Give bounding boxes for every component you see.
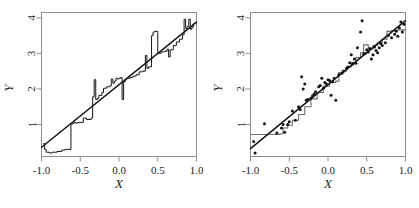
- r-x-tick-label: -1.0: [242, 164, 260, 176]
- left-step-function: [43, 19, 196, 153]
- r-y-tick-label: 1: [235, 122, 247, 128]
- r-y-tick-label: 2: [235, 86, 247, 92]
- left-y-axis-title: Y: [1, 83, 16, 92]
- left-x-tick-labels: -1.0-0.50.00.51.0: [33, 164, 204, 176]
- figure-root: -1.0-0.50.00.51.0 1234 X Y -1.0-0.50.00.…: [0, 0, 419, 208]
- right-y-axis-title: Y: [210, 83, 225, 92]
- right-plot-svg: -1.0-0.50.00.51.0 1234 X Y: [209, 0, 419, 208]
- left-x-tick-marks: [42, 157, 197, 162]
- l-x-tick-label: 1.0: [190, 164, 204, 176]
- l-y-tick-label: 3: [26, 50, 38, 56]
- r-x-tick-label: 0.0: [321, 164, 335, 176]
- left-x-axis-title: X: [114, 176, 124, 191]
- right-y-tick-marks: [246, 18, 251, 125]
- right-x-tick-labels: -1.0-0.50.00.51.0: [242, 164, 413, 176]
- l-x-tick-label: 0.0: [112, 164, 126, 176]
- left-regression-line: [42, 22, 197, 147]
- l-y-tick-label: 2: [26, 86, 38, 92]
- l-x-tick-label: -0.5: [72, 164, 90, 176]
- left-plot-svg: -1.0-0.50.00.51.0 1234 X Y: [0, 0, 209, 208]
- r-x-tick-label: 1.0: [399, 164, 413, 176]
- l-x-tick-label: 0.5: [151, 164, 165, 176]
- right-plot-panel: -1.0-0.50.00.51.0 1234 X Y: [209, 0, 418, 208]
- r-x-tick-label: 0.5: [360, 164, 374, 176]
- right-regression-line: [251, 21, 406, 149]
- right-x-axis-title: X: [323, 176, 333, 191]
- l-x-tick-label: -1.0: [33, 164, 51, 176]
- left-y-tick-labels: 1234: [26, 15, 38, 128]
- l-y-tick-label: 1: [26, 122, 38, 128]
- right-y-tick-labels: 1234: [235, 15, 247, 128]
- r-x-tick-label: -0.5: [281, 164, 299, 176]
- left-y-tick-marks: [37, 18, 42, 125]
- l-y-tick-label: 4: [26, 15, 38, 21]
- r-y-tick-label: 3: [235, 50, 247, 56]
- r-y-tick-label: 4: [235, 15, 247, 21]
- right-x-tick-marks: [251, 157, 406, 162]
- left-plot-panel: -1.0-0.50.00.51.0 1234 X Y: [0, 0, 209, 208]
